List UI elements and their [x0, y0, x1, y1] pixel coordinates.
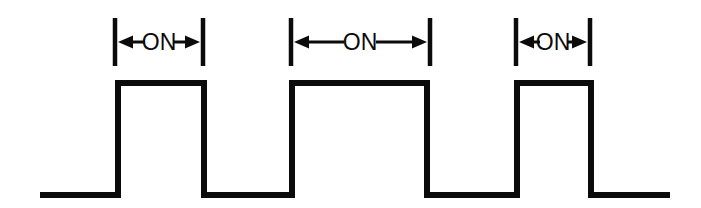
waveform-diagram: ON ON	[0, 0, 701, 208]
on-label-3: ON	[536, 29, 571, 55]
on-label-2: ON	[343, 29, 378, 55]
waveform-figure: ON ON	[0, 0, 701, 208]
on-label-1: ON	[142, 29, 177, 55]
